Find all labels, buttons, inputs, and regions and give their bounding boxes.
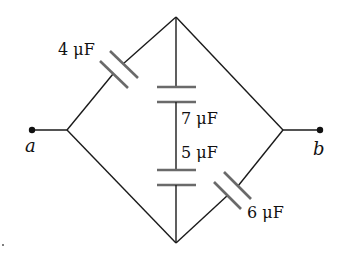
- circuit-diagram: 4 μF 7 μF 5 μF 6 μF a b: [0, 0, 347, 254]
- label-4uF: 4 μF: [58, 40, 95, 59]
- wire-bottom-left: [67, 130, 176, 243]
- label-6uF: 6 μF: [247, 203, 284, 222]
- terminal-a-dot: [29, 127, 35, 133]
- label-7uF: 7 μF: [181, 109, 218, 128]
- label-5uF: 5 μF: [181, 143, 218, 162]
- terminal-a-label: a: [25, 135, 36, 156]
- stray-dot: [2, 244, 4, 246]
- capacitor-4uF: [67, 17, 176, 130]
- capacitor-7uF: [157, 17, 196, 102]
- terminal-b-label: b: [313, 138, 325, 159]
- terminal-b-dot: [317, 127, 323, 133]
- capacitor-5uF: [157, 170, 196, 243]
